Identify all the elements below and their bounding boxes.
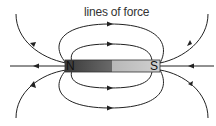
magnetic-field-diagram: lines of force N S [0,0,216,126]
north-pole-label: N [66,59,75,73]
diagram-title: lines of force [84,5,149,19]
bar-magnet [65,60,160,72]
south-pole-label: S [150,59,158,73]
